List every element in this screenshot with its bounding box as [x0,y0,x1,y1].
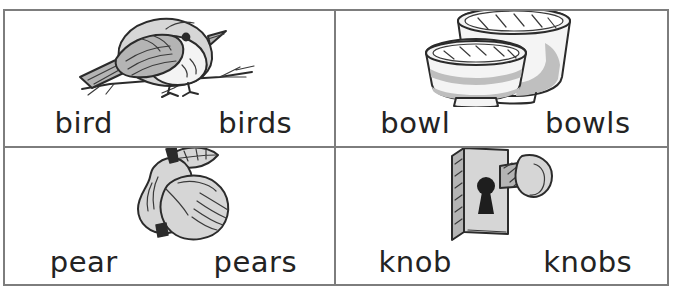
word-knob-plural: knobs [505,248,668,277]
word-card-knob[interactable]: knob knobs [336,148,667,285]
word-pair-bird: bird birds [5,104,334,144]
word-bird-plural: birds [173,109,335,138]
worksheet-frame: bird birds [3,9,669,286]
word-card-bird[interactable]: bird birds [5,11,336,148]
two-bowls-illustration [336,11,667,100]
word-pear-plural: pears [173,248,335,277]
two-pears-illustration [5,148,334,238]
word-pair-knob: knob knobs [336,242,667,282]
word-knob-singular: knob [336,248,505,277]
word-card-grid: bird birds [5,11,667,284]
word-pear-singular: pear [5,248,173,277]
word-pair-bowl: bowl bowls [336,104,667,144]
word-card-pear[interactable]: pear pears [5,148,336,285]
word-bowl-plural: bowls [505,109,668,138]
word-card-bowl[interactable]: bowl bowls [336,11,667,148]
word-bird-singular: bird [5,109,173,138]
doorknob-illustration [336,148,667,238]
bird-on-branch-illustration [5,11,334,100]
word-bowl-singular: bowl [336,109,505,138]
word-pair-pear: pear pears [5,242,334,282]
